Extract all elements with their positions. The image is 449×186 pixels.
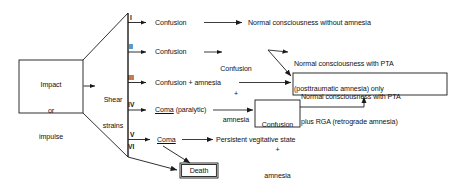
grade1-state-label: Confusion [155, 19, 187, 27]
shear-strains-line-2: strains [94, 122, 132, 131]
source-box-line-2: or [19, 107, 83, 116]
grade-numeral-ii: II [129, 43, 133, 50]
grade2-state-label: Confusion [155, 48, 187, 56]
grade-numeral-v: V [130, 131, 135, 138]
grade4-intermediate-line-2: + [255, 146, 300, 155]
source-box-line-1: Impact [19, 81, 83, 90]
grade-numeral-vi: VI [128, 143, 135, 150]
outcome-death-label: Death [180, 167, 218, 175]
source-box-label: Impact or impulse [19, 64, 83, 159]
outcome-vegetative-label: Persistent vegitative state [216, 136, 295, 144]
grade2-intermediate-line-1: Confusion [205, 65, 267, 74]
grade-numeral-iii: III [128, 74, 134, 81]
outcome-pta-rga-line-2: plus RGA (retrograde amnesia) [301, 118, 401, 126]
grade4-state-label: Coma (paralytic) [155, 106, 206, 114]
confusion-amnesia-to-pta-only-arrow [268, 50, 288, 52]
outcome-pta-rga-label: Normal consciousness with PTA plus RGA (… [301, 76, 401, 143]
outcome-pta-rga-line-1: Normal consciousness with PTA [301, 93, 401, 101]
grade2-intermediate-line-2: + [205, 90, 267, 99]
grade5-state-label: Coma [157, 136, 176, 144]
grade6-to-death-arrow [128, 157, 177, 170]
shear-strains-label: Shear strains [94, 79, 132, 148]
grade4-intermediate-line-1: Confusion [255, 121, 300, 130]
grade-numeral-i: I [130, 14, 132, 21]
grade5-to-death-arrow [163, 146, 190, 163]
head-injury-flowchart: Impact or impulse Shear strains I II III… [0, 0, 449, 185]
grade-numeral-iv: IV [128, 101, 135, 108]
shear-strains-line-1: Shear [94, 96, 132, 105]
outcome-grade1-label: Normal consciousness without amnesia [248, 19, 371, 27]
grade4-intermediate-line-3: amnesia [255, 172, 300, 181]
source-box-line-3: impulse [19, 133, 83, 142]
outcome-pta-only-line-1: Normal consciousness with PTA [294, 60, 394, 68]
grade4-intermediate-box-label: Confusion + amnesia [255, 104, 300, 186]
confusion-amnesia-to-pta-rga-arrow [268, 50, 291, 76]
grade4-coma-word: Coma [155, 106, 174, 114]
